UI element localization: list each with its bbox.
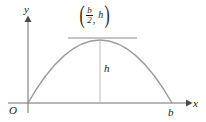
right-parenthesis: ) [105, 5, 110, 26]
parabolic-arch-figure: y x O b h ( b 2 , h ) [0, 0, 206, 122]
coordinate-comma: , [93, 15, 96, 26]
height-label: h [104, 63, 110, 74]
left-parenthesis: ( [80, 5, 85, 26]
fraction-numerator: b [86, 6, 93, 15]
vertex-height-value: h [98, 10, 103, 20]
base-point-label: b [168, 107, 174, 118]
vertex-coordinate-label: ( b 2 , h ) [78, 5, 112, 26]
x-axis-label: x [193, 98, 198, 109]
origin-label: O [9, 105, 17, 116]
y-axis-arrowhead [25, 16, 32, 23]
x-axis-arrowhead [186, 100, 193, 107]
y-axis-label: y [24, 4, 29, 15]
